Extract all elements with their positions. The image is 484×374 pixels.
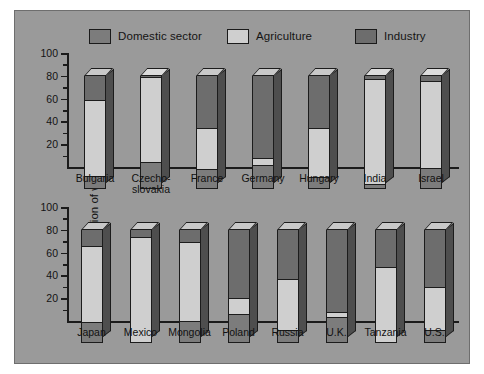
y-tick-label: 100 — [40, 201, 58, 213]
x-axis-category-label: Hungary — [291, 173, 347, 184]
legend-swatch-icon — [227, 29, 249, 44]
bar-segment — [376, 230, 396, 268]
bar-side-face — [330, 69, 338, 183]
bar-side-face — [299, 223, 307, 337]
legend-swatch-icon — [355, 29, 377, 44]
bar-segment — [197, 129, 217, 170]
bar-segment — [180, 230, 200, 243]
bar-side-face — [218, 69, 226, 183]
bar-segment — [309, 129, 329, 178]
bar-segment — [253, 76, 273, 159]
y-tick-label: 20 — [46, 292, 58, 304]
bar-segment — [365, 76, 385, 80]
legend-entry-domestic-sector: Domestic sector — [89, 27, 202, 45]
bar-side-face — [274, 69, 282, 183]
bar-segment — [365, 185, 385, 188]
bar-segment — [327, 230, 347, 313]
bar-segment — [229, 299, 249, 315]
y-tick-label: 20 — [46, 138, 58, 150]
y-tick — [61, 53, 67, 55]
bar-segment — [180, 243, 200, 321]
y-tick-label: 40 — [46, 115, 58, 127]
bar-segment — [131, 230, 151, 238]
y-tick-label: 60 — [46, 247, 58, 259]
y-tick-label: 100 — [40, 47, 58, 59]
bar-segment — [197, 76, 217, 129]
bar-segment — [82, 247, 102, 323]
legend-swatch-icon — [89, 29, 111, 44]
bar-side-face — [446, 223, 454, 337]
y-tick-label: 60 — [46, 93, 58, 105]
bar-segment — [82, 230, 102, 247]
y-tick-minor — [63, 64, 67, 66]
legend-label: Domestic sector — [118, 30, 202, 42]
bar-segment — [229, 230, 249, 299]
chart-figure: Domestic sectorAgricultureIndustry Distr… — [14, 10, 470, 364]
x-axis-category-label: Israel — [403, 173, 459, 184]
bar-segment — [421, 76, 441, 82]
x-axis-category-label: Japan — [67, 327, 116, 338]
bar-segment — [85, 76, 105, 101]
bar-side-face — [103, 223, 111, 337]
bar-side-face — [442, 69, 450, 183]
bar-segment — [421, 82, 441, 169]
bar-segment — [425, 230, 445, 288]
bar-segment — [253, 159, 273, 166]
bar-segment — [425, 288, 445, 331]
legend-label: Agriculture — [256, 30, 312, 42]
bar-segment — [327, 313, 347, 319]
y-tick — [61, 207, 67, 209]
x-axis-category-label: Germany — [235, 173, 291, 184]
bar-segment — [141, 78, 161, 163]
x-axis-category-label: Mongolia — [165, 327, 214, 338]
legend-label: Industry — [384, 30, 426, 42]
bar-side-face — [386, 69, 394, 183]
y-tick-label: 80 — [46, 70, 58, 82]
bar-side-face — [162, 69, 170, 183]
bar-side-face — [250, 223, 258, 337]
bar-side-face — [348, 223, 356, 337]
bar-segment — [278, 280, 298, 330]
bar-side-face — [397, 223, 405, 337]
bar-segment — [309, 76, 329, 129]
x-axis-category-label: Poland — [214, 327, 263, 338]
x-axis-category-label: U.K. — [312, 327, 361, 338]
y-tick-label: 40 — [46, 269, 58, 281]
chart-panel-row-1: 20406080100 BulgariaCzecho- slovakiaFran… — [67, 53, 459, 191]
x-axis-category-label: India — [347, 173, 403, 184]
legend-entry-agriculture: Agriculture — [227, 27, 312, 45]
bar-side-face — [152, 223, 160, 337]
bar-segment — [141, 76, 161, 78]
y-tick-minor — [63, 218, 67, 220]
bar-segment — [85, 101, 105, 177]
x-axis-category-label: Russia — [263, 327, 312, 338]
x-axis-category-label: Czecho- slovakia — [123, 173, 179, 195]
bar-segment — [365, 80, 385, 184]
x-axis-category-label: Bulgaria — [67, 173, 123, 184]
x-axis-category-label: Mexico — [116, 327, 165, 338]
bar-segment — [278, 230, 298, 280]
bar-side-face — [106, 69, 114, 183]
x-axis-category-label: U.S. — [410, 327, 459, 338]
y-tick-label: 80 — [46, 224, 58, 236]
x-axis-category-label: France — [179, 173, 235, 184]
x-axis-category-label: Tanzania — [361, 327, 410, 338]
legend-entry-industry: Industry — [355, 27, 426, 45]
chart-legend: Domestic sectorAgricultureIndustry — [15, 27, 469, 49]
chart-panel-row-2: 20406080100 JapanMexicoMongoliaPolandRus… — [67, 207, 459, 345]
bar-side-face — [201, 223, 209, 337]
